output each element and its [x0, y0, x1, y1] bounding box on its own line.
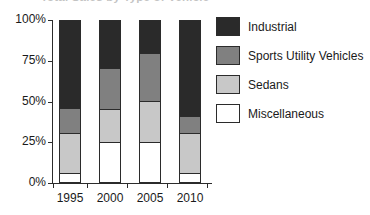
y-tick-mark [48, 61, 53, 62]
y-tick-mark [48, 102, 53, 103]
legend-item-label: Miscellaneous [248, 107, 324, 121]
bar-segment-industrial[interactable] [60, 21, 80, 108]
bar-segment-miscellaneous[interactable] [140, 142, 160, 183]
bar-segment-sports-utility-vehicles[interactable] [60, 108, 80, 133]
legend-item-sedans[interactable]: Sedans [216, 70, 370, 99]
bar-segment-sedans[interactable] [140, 101, 160, 142]
legend-item-industrial[interactable]: Industrial [216, 12, 370, 41]
y-tick-25: 25% [52, 142, 53, 143]
bar-segment-industrial[interactable] [140, 21, 160, 53]
legend-item-miscellaneous[interactable]: Miscellaneous [216, 99, 370, 128]
bar-segment-sports-utility-vehicles[interactable] [180, 116, 200, 133]
bar-segment-sports-utility-vehicles[interactable] [100, 68, 120, 109]
bar-segment-sedans[interactable] [60, 133, 80, 174]
legend-item-label: Sedans [248, 78, 289, 92]
legend-item-sports-utility-vehicles[interactable]: Sports Utility Vehicles [216, 41, 370, 70]
legend-swatch-icon [216, 46, 240, 65]
x-tick-mark [167, 183, 168, 188]
legend-item-label: Industrial [248, 20, 297, 34]
bar-1995[interactable] [59, 20, 81, 183]
bar-segment-sedans[interactable] [180, 133, 200, 174]
y-tick-label: 50% [22, 94, 46, 108]
chart-title: Total Sales by Type of Vehicle [0, 0, 250, 3]
y-tick-100: 100% [52, 20, 53, 21]
x-axis-line [52, 183, 212, 184]
legend-swatch-icon [216, 17, 240, 36]
y-tick-mark [48, 20, 53, 21]
bar-segment-miscellaneous[interactable] [100, 142, 120, 183]
bar-segment-industrial[interactable] [180, 21, 200, 116]
bar-segment-sports-utility-vehicles[interactable] [140, 53, 160, 101]
bar-2005[interactable] [139, 20, 161, 183]
legend-swatch-icon [216, 104, 240, 123]
y-tick-label: 0% [29, 175, 46, 189]
y-tick-label: 100% [15, 12, 46, 26]
plot-area: 0%25%50%75%100% 1995200020052010 [52, 20, 210, 184]
y-tick-label: 75% [22, 53, 46, 67]
stacked-bar-chart: Total Sales by Type of Vehicle 0%25%50%7… [0, 0, 370, 215]
y-tick-mark [48, 142, 53, 143]
chart-legend: IndustrialSports Utility VehiclesSedansM… [216, 12, 370, 128]
legend-item-label: Sports Utility Vehicles [248, 49, 363, 63]
bar-segment-miscellaneous[interactable] [60, 173, 80, 182]
x-tick-mark [207, 183, 208, 188]
bar-segment-sedans[interactable] [100, 109, 120, 142]
bar-2010[interactable] [179, 20, 201, 183]
y-tick-label: 25% [22, 134, 46, 148]
legend-swatch-icon [216, 75, 240, 94]
bar-2000[interactable] [99, 20, 121, 183]
bar-segment-industrial[interactable] [100, 21, 120, 68]
x-tick-mark [127, 183, 128, 188]
x-axis-label-2010: 2010 [167, 191, 213, 205]
bar-segment-miscellaneous[interactable] [180, 173, 200, 182]
y-tick-50: 50% [52, 102, 53, 103]
x-tick-mark [53, 183, 54, 188]
x-tick-mark [87, 183, 88, 188]
y-tick-75: 75% [52, 61, 53, 62]
